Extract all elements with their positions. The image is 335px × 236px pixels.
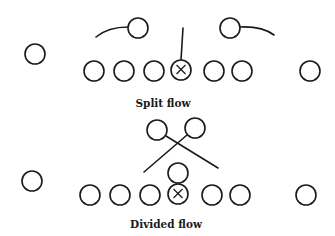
divided-flow-diagram	[22, 118, 316, 205]
player-circle-icon	[202, 185, 222, 205]
player-circle-icon	[230, 185, 250, 205]
player-circle-icon	[232, 61, 252, 81]
player-circle-icon	[296, 185, 316, 205]
player-circle-icon	[140, 185, 160, 205]
player-circle-icon	[110, 185, 130, 205]
divided-flow-label: Divided flow	[130, 218, 203, 230]
player-circle-icon	[300, 61, 320, 81]
player-circle-icon	[168, 163, 188, 183]
route-line	[96, 27, 128, 37]
player-circle-icon	[185, 118, 205, 138]
player-circle-icon	[220, 18, 240, 38]
player-circle-icon	[128, 18, 148, 38]
formation-diagram-canvas: Split flow Divided flow	[0, 0, 335, 236]
route-line	[240, 27, 274, 35]
split-flow-diagram	[25, 18, 320, 81]
player-circle-icon	[80, 185, 100, 205]
player-circle-icon	[25, 44, 45, 64]
route-line	[181, 28, 183, 60]
player-circle-icon	[147, 120, 167, 140]
split-flow-label: Split flow	[135, 97, 191, 109]
player-circle-icon	[114, 61, 134, 81]
player-circle-icon	[22, 171, 42, 191]
player-circle-icon	[204, 61, 224, 81]
player-circle-icon	[144, 61, 164, 81]
player-circle-icon	[84, 61, 104, 81]
